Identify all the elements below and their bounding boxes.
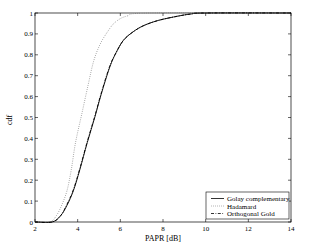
y-tick-label: 0.1 xyxy=(24,198,33,206)
y-tick-label: 0 xyxy=(30,219,34,227)
x-tick-label: 12 xyxy=(245,225,253,233)
x-tick-label: 6 xyxy=(119,225,123,233)
y-tick-label: 0.9 xyxy=(24,30,33,38)
series-golay-complementary-line xyxy=(35,13,291,223)
y-tick-label: 0.6 xyxy=(24,93,33,101)
x-tick-label: 14 xyxy=(288,225,296,233)
y-tick-label: 0.7 xyxy=(24,72,33,80)
y-tick-label: 0.3 xyxy=(24,156,33,164)
x-tick-label: 10 xyxy=(202,225,210,233)
x-tick-label: 4 xyxy=(76,225,80,233)
y-tick-label: 0.5 xyxy=(24,114,33,122)
x-tick-label: 2 xyxy=(33,225,37,233)
y-tick-label: 0.4 xyxy=(24,135,33,143)
legend: Golay complementary Hadamard Orthogonal … xyxy=(206,192,290,219)
series-lines xyxy=(35,13,291,223)
cdf-chart: 246810121400.10.20.30.40.50.60.70.80.91 … xyxy=(0,0,310,250)
x-tick-label: 8 xyxy=(161,225,165,233)
y-axis-label: cdf xyxy=(5,115,14,126)
legend-label: Orthogonal Gold xyxy=(227,210,275,218)
y-tick-label: 0.2 xyxy=(24,177,33,185)
y-tick-label: 1 xyxy=(30,10,34,18)
x-axis-label: PAPR [dB] xyxy=(145,234,181,243)
y-tick-label: 0.8 xyxy=(24,51,33,59)
